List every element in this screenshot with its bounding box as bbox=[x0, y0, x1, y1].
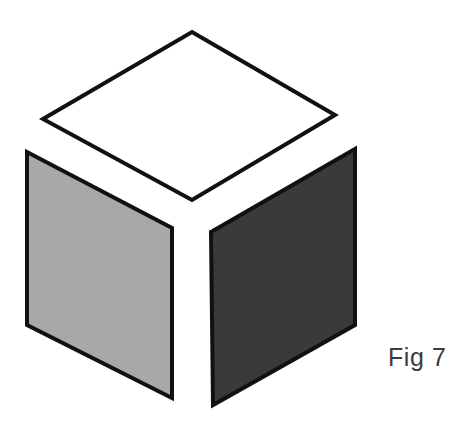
left-face bbox=[27, 152, 172, 398]
figure-caption: Fig 7 bbox=[388, 345, 447, 370]
right-face bbox=[211, 149, 355, 405]
figure-container: Fig 7 bbox=[0, 0, 463, 432]
top-face bbox=[43, 32, 335, 200]
